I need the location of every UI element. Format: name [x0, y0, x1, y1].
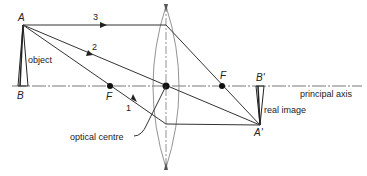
image-arrow — [256, 86, 264, 125]
focal-point-left — [107, 83, 113, 89]
focal-point-right — [219, 83, 225, 89]
label-B: B — [17, 90, 24, 101]
ray-3-arrow-icon — [100, 22, 107, 28]
label-optical-centre: optical centre — [70, 132, 124, 142]
label-principal-axis: principal axis — [300, 89, 353, 99]
optical-centre-leader — [134, 86, 166, 136]
label-ray-1: 1 — [126, 103, 131, 113]
label-B-prime: B' — [256, 72, 266, 83]
label-ray-2: 2 — [92, 42, 97, 52]
label-real-image: real image — [264, 105, 306, 115]
label-F-right: F — [220, 70, 227, 81]
object-arrow — [18, 25, 28, 86]
label-A-prime: A' — [253, 127, 264, 138]
label-ray-3: 3 — [93, 12, 98, 22]
ray-diagram: A B object F F A' B' real image principa… — [0, 0, 367, 176]
label-A: A — [17, 12, 25, 23]
label-F-left: F — [106, 91, 113, 102]
label-object: object — [28, 55, 53, 65]
